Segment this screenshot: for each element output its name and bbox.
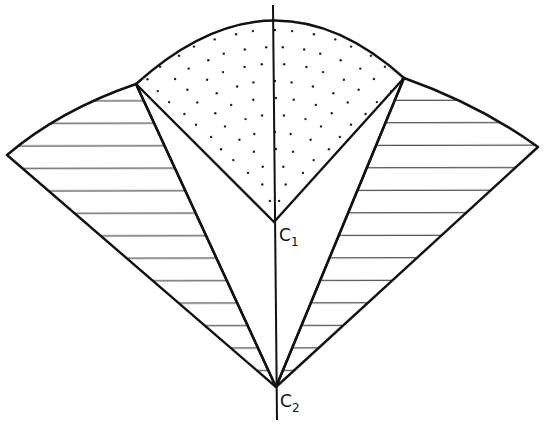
label-c2: C2 — [280, 391, 300, 415]
label-c1: C1 — [279, 225, 299, 249]
symmetry-axis — [273, 5, 277, 420]
right-hatched-wing — [260, 60, 545, 400]
diagram-canvas: C1 C2 — [0, 0, 545, 428]
